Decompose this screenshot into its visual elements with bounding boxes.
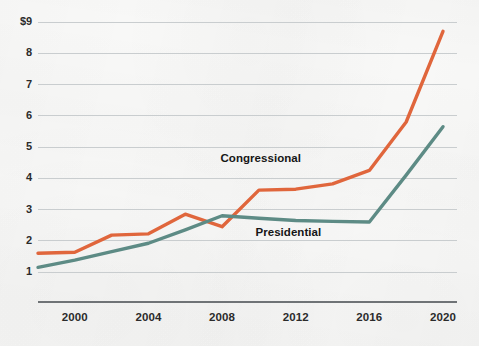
x-tick-label-2000: 2000 xyxy=(50,311,100,323)
series-lines xyxy=(38,31,443,267)
gridlines xyxy=(38,22,457,272)
line-chart-plot xyxy=(0,0,479,346)
series-label-congressional: Congressional xyxy=(220,152,301,164)
y-tick-label-1: 1 xyxy=(26,265,32,277)
series-line-congressional xyxy=(38,31,443,253)
y-tick-label-4: 4 xyxy=(26,171,32,183)
y-tick-label-6: 6 xyxy=(26,109,32,121)
x-tick-label-2020: 2020 xyxy=(418,311,468,323)
series-line-presidential xyxy=(38,127,443,268)
y-tick-label-9: $9 xyxy=(20,15,32,27)
y-tick-label-5: 5 xyxy=(26,140,32,152)
x-tick-label-2004: 2004 xyxy=(123,311,173,323)
y-tick-label-2: 2 xyxy=(26,234,32,246)
series-label-presidential: Presidential xyxy=(255,226,321,238)
x-tick-label-2012: 2012 xyxy=(271,311,321,323)
x-tick-label-2016: 2016 xyxy=(344,311,394,323)
x-tick-label-2008: 2008 xyxy=(197,311,247,323)
y-tick-label-7: 7 xyxy=(26,78,32,90)
chart-figure: $987654321 200020042008201220162020 Cong… xyxy=(0,0,479,346)
y-tick-label-8: 8 xyxy=(26,46,32,58)
y-tick-label-3: 3 xyxy=(26,203,32,215)
